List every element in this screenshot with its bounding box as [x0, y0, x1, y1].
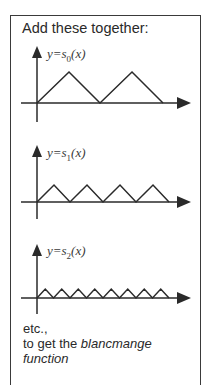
- footer-line-2: to get the blancmange: [23, 336, 152, 351]
- footer-line-1: etc.,: [23, 321, 152, 336]
- triangle-wave-s2: [37, 289, 169, 298]
- graph-label-s2: y=s2(x): [47, 243, 86, 261]
- x-axis-arrow-icon: [177, 292, 191, 304]
- footer-caption: etc., to get the blancmange function: [23, 321, 152, 366]
- blancmange-term: blancmange: [81, 336, 152, 351]
- y-axis-arrow-icon: [32, 244, 42, 256]
- footer-line-3: function: [23, 351, 152, 366]
